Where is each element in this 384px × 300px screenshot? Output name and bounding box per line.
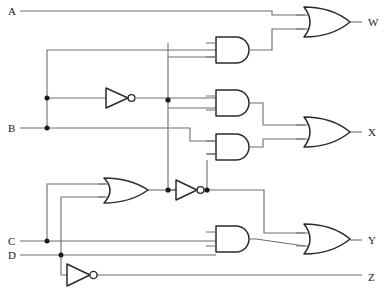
wire-and1-to-orw <box>256 29 305 50</box>
junction-invmid-output <box>204 187 209 192</box>
output-label-x: X <box>368 126 376 138</box>
junction-notb-fanout <box>165 97 170 102</box>
not-gate-d-body <box>67 264 90 286</box>
or-gate-y[interactable] <box>296 224 350 254</box>
wire-and2-to-orx <box>256 103 305 125</box>
input-label-d: D <box>8 249 16 261</box>
or-gate-x[interactable] <box>296 117 350 147</box>
or-gate-cd-leads <box>98 184 108 197</box>
or-gate-x-body <box>304 117 350 147</box>
and-gate-3-body <box>216 134 249 160</box>
wire-d-to-invd <box>61 255 67 275</box>
junction-d-branch <box>59 253 64 258</box>
and-gate-2[interactable] <box>206 90 256 116</box>
not-gate-b-bubble <box>128 95 135 102</box>
wire-and4-to-ory <box>256 239 305 246</box>
or-gate-w[interactable] <box>296 7 350 37</box>
and-gate-2-body <box>216 90 249 116</box>
and-gate-4-body <box>216 226 249 252</box>
junction-c-branch <box>45 239 50 244</box>
not-gate-b[interactable] <box>106 88 135 108</box>
or-gate-y-leads <box>296 233 308 246</box>
and-gate-3[interactable] <box>206 134 256 160</box>
wire-c-riser <box>47 184 105 241</box>
and-gate-1-body <box>216 37 249 63</box>
not-gate-b-body <box>106 88 128 108</box>
circuit-canvas: A B C D W X Y Z <box>0 0 384 300</box>
wire-a-top <box>20 11 305 15</box>
output-label-w: W <box>368 16 379 28</box>
input-label-a: A <box>8 5 16 17</box>
or-gate-y-body <box>304 224 350 254</box>
not-gate-d-bubble <box>90 271 97 278</box>
output-label-y: Y <box>368 234 376 246</box>
input-label-b: B <box>8 122 15 134</box>
output-label-z: Z <box>368 271 375 283</box>
or-gate-cd-body <box>104 178 148 203</box>
wire-and3-to-orx <box>256 139 305 147</box>
and-gate-4[interactable] <box>206 226 256 252</box>
wire-b-to-and3 <box>168 128 216 141</box>
wire-b-riser <box>47 50 216 128</box>
wire-d-riser <box>61 197 105 255</box>
junction-layer <box>45 96 210 258</box>
or-gate-x-leads <box>296 125 308 139</box>
logic-circuit-figure: A B C D W X Y Z <box>0 0 384 300</box>
or-gate-w-leads <box>296 15 308 29</box>
not-gate-mid[interactable] <box>176 180 204 200</box>
input-label-c: C <box>8 235 15 247</box>
not-gate-mid-body <box>176 180 197 200</box>
or-gate-cd[interactable] <box>98 178 148 203</box>
or-gate-w-body <box>304 7 350 37</box>
not-gate-mid-bubble <box>197 187 204 194</box>
not-gate-d[interactable] <box>67 264 97 286</box>
junction-b-upper <box>45 96 50 101</box>
junction-b-lower <box>45 126 50 131</box>
junction-invmid-input <box>165 187 170 192</box>
